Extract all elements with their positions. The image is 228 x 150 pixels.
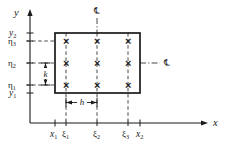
k-dim-arrow-top [44, 63, 48, 69]
h-dimension: h [66, 97, 97, 108]
grid-node: × [94, 57, 101, 69]
grid-node: × [125, 79, 132, 91]
x-tick-label-x1: x1 [49, 129, 57, 140]
k-dimension: k [41, 63, 50, 85]
vertical-centerline: ℄ [93, 6, 100, 33]
grid-node: × [63, 79, 70, 91]
horizontal-centerline: ℄ [140, 58, 170, 68]
grid-node: × [63, 57, 70, 69]
grid-node: × [125, 57, 132, 69]
x-axis-arrowhead [201, 120, 208, 125]
figure-canvas: y x y2 η3 η2 η1 [0, 0, 228, 150]
mesh-grid-diagram: y x y2 η3 η2 η1 [0, 0, 228, 150]
h-dim-arrow-left [66, 101, 72, 105]
h-dim-label: h [80, 97, 85, 107]
grid-node: × [125, 35, 132, 47]
x-tick-label-xi1: ξ1 [62, 129, 69, 140]
x-tick-label-xi2: ξ2 [93, 129, 100, 140]
y-axis-label: y [13, 7, 19, 18]
vertical-centerline-symbol: ℄ [93, 6, 100, 16]
x-tick-label-x2: x2 [135, 129, 143, 140]
h-dim-arrow-right [91, 101, 97, 105]
x-axis-label: x [212, 117, 218, 128]
horizontal-centerline-symbol: ℄ [163, 58, 170, 68]
grid-node: × [94, 35, 101, 47]
grid-node-markers: × × × × × × × × × [63, 35, 132, 91]
grid-node: × [94, 79, 101, 91]
grid-node: × [63, 35, 70, 47]
k-dim-arrow-bottom [44, 80, 48, 86]
y-tick-label-eta2: η2 [8, 58, 16, 69]
y-axis-arrowhead [27, 9, 32, 16]
x-tick-label-xi3: ξ3 [122, 129, 129, 140]
